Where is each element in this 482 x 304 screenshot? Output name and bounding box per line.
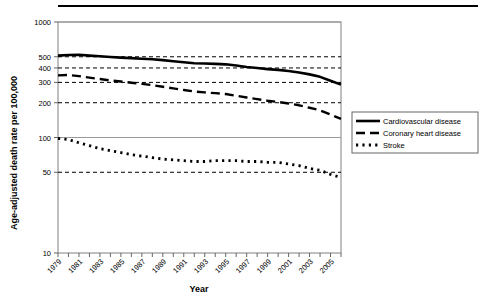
x-tick-label: 1979 bbox=[45, 257, 63, 275]
y-tick-label: 50 bbox=[43, 168, 51, 177]
legend-label: Cardiovascular disease bbox=[383, 117, 461, 126]
y-axis-ticks: 10005004003002001005010 bbox=[34, 18, 58, 258]
y-tick-label: 500 bbox=[38, 53, 51, 62]
legend-label: Coronary heart disease bbox=[383, 129, 461, 138]
chart-svg: 10005004003002001005010 1979198119831985… bbox=[0, 0, 482, 304]
y-tick-label: 400 bbox=[38, 64, 51, 73]
figure-container: 10005004003002001005010 1979198119831985… bbox=[0, 0, 482, 304]
y-tick-label: 300 bbox=[38, 78, 51, 87]
gridlines bbox=[58, 22, 341, 172]
y-axis-title: Age-adjusted death rate per 100,000 bbox=[9, 76, 19, 230]
x-tick-label: 1985 bbox=[108, 257, 126, 275]
x-tick-label: 1995 bbox=[213, 257, 231, 275]
series-line-dotted bbox=[58, 139, 341, 178]
x-tick-label: 2005 bbox=[318, 257, 336, 275]
series-line-dashed bbox=[58, 75, 341, 119]
x-tick-label: 1993 bbox=[192, 257, 210, 275]
x-axis-title: Year bbox=[189, 284, 209, 294]
legend-label: Stroke bbox=[383, 141, 405, 150]
y-tick-label: 100 bbox=[38, 134, 51, 143]
x-tick-label: 1983 bbox=[87, 257, 105, 275]
x-tick-label: 1981 bbox=[66, 257, 84, 275]
x-tick-label: 2001 bbox=[276, 257, 294, 275]
y-tick-label: 200 bbox=[38, 99, 51, 108]
x-tick-label: 1997 bbox=[234, 257, 252, 275]
data-series-group bbox=[58, 55, 341, 178]
x-tick-label: 1999 bbox=[255, 257, 273, 275]
y-tick-label: 10 bbox=[43, 249, 51, 258]
legend-box: Cardiovascular diseaseCoronary heart dis… bbox=[352, 112, 478, 153]
x-tick-label: 1989 bbox=[150, 257, 168, 275]
y-tick-label: 1000 bbox=[34, 18, 51, 27]
x-tick-label: 1991 bbox=[171, 257, 189, 275]
x-axis-ticks: 1979198119831985198719891991199319951997… bbox=[45, 253, 341, 275]
x-tick-label: 1987 bbox=[129, 257, 147, 275]
x-tick-label: 2003 bbox=[297, 257, 315, 275]
